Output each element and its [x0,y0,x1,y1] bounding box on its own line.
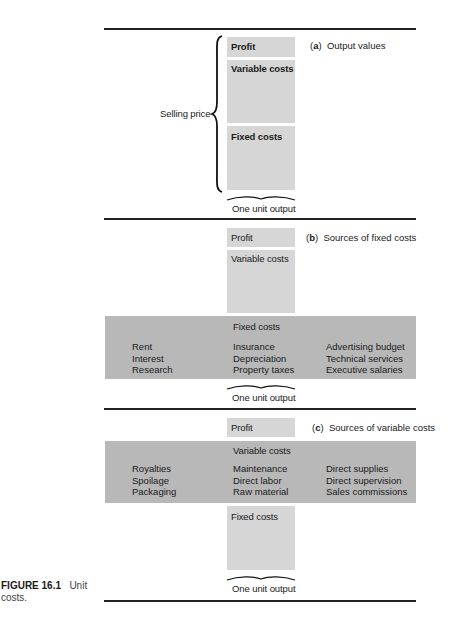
source-item: Spoilage [132,475,176,487]
variable-costs-label: Variable costs [231,253,289,264]
variable-sources-col-3: Direct supplies Direct supervision Sales… [326,463,407,498]
profit-box-b: Profit [227,228,295,247]
profit-label: Profit [231,422,253,433]
variable-sources-col-2: Maintenance Direct labor Raw material [233,463,288,498]
bottom-rule [104,600,416,602]
panel-c-title-text: Sources of variable costs [329,422,435,433]
panel-b-title-text: Sources of fixed costs [323,232,416,243]
panel-b-letter: b [309,232,315,243]
source-item: Executive salaries [326,364,405,376]
panel-a-title-text: Output values [327,40,386,51]
variable-costs-band-c: Variable costs Royalties Spoilage Packag… [105,441,416,503]
panel-c-letter: c [315,422,320,433]
source-item: Packaging [132,486,176,498]
fixed-sources-col-3: Advertising budget Technical services Ex… [326,341,405,376]
one-unit-output-label-a: One unit output [232,203,295,214]
selling-price-label: Selling price [160,108,210,119]
panel-b-title: (b) Sources of fixed costs [306,232,416,243]
panel-c-title: (c) Sources of variable costs [312,422,435,433]
source-item: Direct supplies [326,463,407,475]
fixed-costs-label: Fixed costs [231,511,278,522]
variable-sources-col-1: Royalties Spoilage Packaging [132,463,176,498]
variable-costs-box-a: Variable costs [227,60,295,123]
panel-a-title: (a) Output values [310,40,386,51]
source-item: Maintenance [233,463,288,475]
fixed-sources-col-1: Rent Interest Research [132,341,173,376]
source-item: Depreciation [233,353,294,365]
variable-costs-label: Variable costs [233,445,291,456]
profit-label: Profit [231,41,255,52]
source-item: Raw material [233,486,288,498]
fixed-costs-box-a: Fixed costs [227,126,295,190]
variable-costs-box-b: Variable costs [227,250,295,313]
divider-rule-b [104,408,416,410]
unit-brace-a-icon [227,194,295,202]
source-item: Insurance [233,341,294,353]
fixed-costs-label: Fixed costs [233,321,280,332]
source-item: Advertising budget [326,341,405,353]
unit-brace-c-icon [227,574,295,582]
figure-caption: FIGURE 16.1 Unit costs. [1,580,101,604]
panel-a-letter: a [313,40,318,51]
variable-costs-label: Variable costs [231,63,294,74]
fixed-costs-band-b: Fixed costs Rent Interest Research Insur… [105,316,416,379]
selling-price-brace-icon [212,36,224,192]
profit-box-c: Profit [227,418,295,437]
divider-rule-a [104,218,416,220]
source-item: Sales commissions [326,486,407,498]
profit-box-a: Profit [227,37,295,57]
fixed-costs-label: Fixed costs [231,131,282,142]
source-item: Property taxes [233,364,294,376]
source-item: Rent [132,341,173,353]
source-item: Direct labor [233,475,288,487]
one-unit-output-label-c: One unit output [232,583,295,594]
profit-label: Profit [231,232,253,243]
source-item: Technical services [326,353,405,365]
fixed-costs-box-c: Fixed costs [227,506,295,570]
figure-number: FIGURE 16.1 [1,580,61,591]
fixed-sources-col-2: Insurance Depreciation Property taxes [233,341,294,376]
source-item: Royalties [132,463,176,475]
top-rule [104,28,416,30]
unit-brace-b-icon [227,383,295,391]
source-item: Interest [132,353,173,365]
one-unit-output-label-b: One unit output [232,392,295,403]
source-item: Direct supervision [326,475,407,487]
source-item: Research [132,364,173,376]
